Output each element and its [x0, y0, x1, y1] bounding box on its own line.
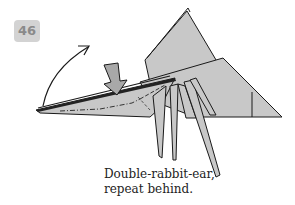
- caption-line-2: repeat behind.: [104, 182, 254, 197]
- caption-line-1: Double-rabbit-ear,: [104, 167, 254, 182]
- leg-1: [153, 86, 166, 158]
- step-caption: Double-rabbit-ear, repeat behind.: [104, 167, 254, 197]
- leg-2: [170, 84, 178, 160]
